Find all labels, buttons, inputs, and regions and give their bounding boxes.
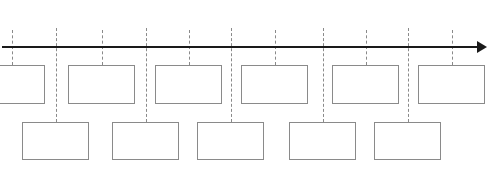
bottom-event-box (197, 122, 264, 160)
bottom-event-box (289, 122, 356, 160)
bottom-event-box (22, 122, 89, 160)
bottom-event-connector (231, 28, 232, 122)
top-event-box (0, 65, 45, 104)
arrow-right-icon (477, 41, 487, 53)
top-event-box (332, 65, 399, 104)
bottom-event-box (374, 122, 441, 160)
timeline-axis (2, 46, 481, 48)
top-event-box (418, 65, 485, 104)
top-event-box (155, 65, 222, 104)
bottom-event-connector (323, 28, 324, 122)
timeline-diagram (0, 0, 502, 176)
bottom-event-box (112, 122, 179, 160)
bottom-event-connector (146, 28, 147, 122)
bottom-event-connector (408, 28, 409, 122)
top-event-box (68, 65, 135, 104)
bottom-event-connector (56, 28, 57, 122)
top-event-box (241, 65, 308, 104)
